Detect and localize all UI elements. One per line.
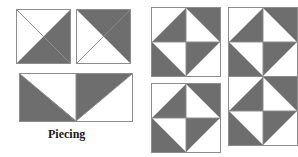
pinwheel-block-1 [151, 7, 221, 77]
dark-triangle-top-left [229, 77, 263, 111]
dark-triangle-top-right [186, 84, 220, 118]
dark-triangle-bottom-right [263, 42, 297, 76]
dark-triangle-bottom-right [263, 111, 297, 145]
hst-unit-1-shape [17, 10, 70, 63]
half-square-triangle-unit-1 [16, 9, 71, 64]
dark-triangle-top-left [152, 84, 186, 118]
pinwheel-block-2-shape [152, 84, 220, 152]
dark-triangle-bottom-left [152, 118, 186, 152]
joined-pair-shape [20, 74, 132, 121]
pinwheel-block-3-shape [229, 8, 297, 76]
dark-triangle-bottom-left [229, 111, 263, 145]
dark-triangle-top-right [263, 8, 297, 42]
piecing-diagram: Piecing [0, 0, 298, 157]
pinwheel-block-4-shape [229, 77, 297, 145]
pinwheel-block-4 [228, 76, 298, 146]
pinwheel-block-2 [151, 83, 221, 153]
hst-unit-2-shape [77, 10, 130, 63]
dark-triangle-top-right [186, 8, 220, 42]
pinwheel-block-3 [228, 7, 298, 77]
half-square-triangle-unit-2 [76, 9, 131, 64]
dark-triangle-top-left [229, 8, 263, 42]
dark-triangle-top-left [152, 8, 186, 42]
dark-triangle-top-right [263, 77, 297, 111]
dark-triangle-bottom-left [229, 42, 263, 76]
dark-triangle-bottom-left [152, 42, 186, 76]
pinwheel-block-1-shape [152, 8, 220, 76]
figure-caption: Piecing [48, 127, 85, 142]
dark-triangle-bottom-right [186, 118, 220, 152]
dark-triangle-bottom-right [186, 42, 220, 76]
joined-triangle-pair [19, 73, 133, 122]
